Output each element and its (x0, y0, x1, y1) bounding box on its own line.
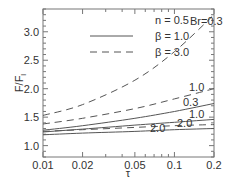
curve-label: Br=0.3 (190, 15, 223, 27)
curve-label: 1.0 (189, 81, 204, 93)
legend-header: n = 0.5 (155, 14, 189, 26)
y-tick-label: 1.0 (24, 140, 39, 152)
x-tick-label: 0.02 (72, 159, 93, 171)
curve-label: 0.3 (183, 96, 198, 108)
y-tick-label: 2.0 (24, 83, 39, 95)
x-tick-label: 0.2 (206, 159, 221, 171)
legend: n = 0.5 β = 1.0 β = 3.0 (90, 14, 189, 58)
curve-5 (43, 129, 214, 135)
x-tick-label: 0.01 (32, 159, 53, 171)
curve-label: 2.0 (150, 122, 165, 134)
legend-entry-dashed: β = 3.0 (155, 46, 189, 58)
y-tick-label: 1.5 (24, 111, 39, 123)
chart: 0.010.020.050.10.2 1.01.52.02.53.0 Br=0.… (0, 0, 248, 183)
x-axis-label: τ (126, 167, 131, 179)
y-tick-label: 3.0 (24, 26, 39, 38)
curve-label: 2.0 (177, 117, 192, 129)
y-tick-label: 2.5 (24, 54, 39, 66)
legend-entry-solid: β = 1.0 (155, 30, 189, 42)
x-tick-label: 0.1 (167, 159, 182, 171)
